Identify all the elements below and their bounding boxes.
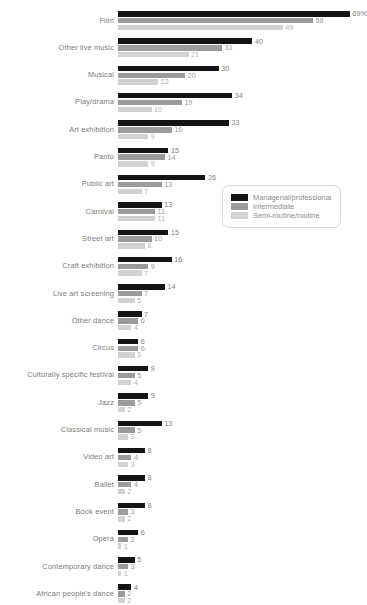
bar-item: 6 — [118, 318, 145, 323]
bar-value-label: 6 — [141, 529, 145, 536]
bar-rect — [118, 434, 128, 439]
bar-item: 31 — [118, 45, 233, 50]
bar-value-label: 9 — [151, 263, 155, 270]
bar-rect — [118, 311, 142, 316]
bar-value-label: 34 — [235, 92, 243, 99]
bar-value-label: 4 — [134, 584, 138, 591]
chart-category-row: Other live music403121 — [0, 34, 367, 61]
bar-item: 2 — [118, 489, 131, 494]
category-bars: 341910 — [118, 89, 367, 116]
bar-item: 3 — [118, 434, 135, 439]
legend-item: Managerial/professional — [231, 194, 331, 201]
bar-item: 40 — [118, 38, 263, 43]
chart-category-row: Other dance764 — [0, 307, 367, 334]
bar-value-label: 2 — [127, 406, 131, 413]
category-bars: 531 — [118, 553, 367, 580]
bar-value-label: 14 — [168, 154, 176, 161]
chart-category-row: Video art843 — [0, 444, 367, 471]
bar-value-label: 9 — [151, 365, 155, 372]
bar-rect — [118, 189, 142, 194]
category-bars: 1697 — [118, 253, 367, 280]
bar-rect — [118, 380, 131, 385]
category-label: Book event — [0, 508, 118, 516]
category-label: Opera — [0, 535, 118, 543]
bar-rect — [118, 325, 131, 330]
bar-item: 20 — [118, 73, 196, 78]
bar-item: 4 — [118, 455, 138, 460]
bar-value-label: 8 — [147, 474, 151, 481]
bar-rect — [118, 448, 145, 453]
category-bars: 33169 — [118, 116, 367, 143]
bar-value-label: 12 — [161, 78, 169, 85]
bar-rect — [118, 79, 158, 84]
bar-rect — [118, 475, 145, 480]
bar-rect — [118, 571, 121, 576]
bar-item: 15 — [118, 230, 179, 235]
bar-value-label: 2 — [127, 515, 131, 522]
bar-rect — [118, 462, 128, 467]
bar-value-label: 8 — [147, 502, 151, 509]
category-label: Classical music — [0, 426, 118, 434]
bar-item: 4 — [118, 380, 138, 385]
bar-item: 3 — [118, 462, 135, 467]
bar-rect — [118, 257, 172, 262]
category-bars: 1353 — [118, 416, 367, 443]
bar-rect — [118, 516, 125, 521]
category-bars: 422 — [118, 580, 367, 605]
bar-rect — [118, 18, 313, 23]
bar-rect — [118, 100, 182, 105]
bar-rect — [118, 591, 125, 596]
chart-category-row: Play/drama341910 — [0, 89, 367, 116]
bar-rect — [118, 352, 135, 357]
bar-value-label: 9 — [151, 160, 155, 167]
bar-rect — [118, 489, 125, 494]
bar-rect — [118, 270, 142, 275]
bar-item: 49 — [118, 25, 293, 30]
category-label: Play/drama — [0, 98, 118, 106]
bar-item: 9 — [118, 264, 155, 269]
category-bars: 842 — [118, 471, 367, 498]
category-label: Contemporary dance — [0, 563, 118, 571]
bar-rect — [118, 154, 165, 159]
bar-value-label: 5 — [137, 427, 141, 434]
bar-item: 13 — [118, 421, 172, 426]
category-bars: 302012 — [118, 62, 367, 89]
bar-rect — [118, 346, 138, 351]
bar-rect — [118, 73, 185, 78]
bar-item: 5 — [118, 557, 141, 562]
bar-value-label: 8 — [147, 447, 151, 454]
legend-item: Intermediate — [231, 203, 331, 210]
bar-value-label: 3 — [131, 433, 135, 440]
bar-rect — [118, 161, 148, 166]
legend-swatch-icon — [231, 212, 248, 219]
bar-item: 11 — [118, 216, 165, 221]
chart-category-row: Book event832 — [0, 498, 367, 525]
chart-category-row: Musical302012 — [0, 62, 367, 89]
bar-item: 7 — [118, 189, 148, 194]
bar-value-label: 13 — [164, 201, 172, 208]
chart-category-row: Jazz952 — [0, 389, 367, 416]
bar-rect — [118, 25, 283, 30]
chart-category-row: Film69%5849 — [0, 7, 367, 34]
category-bars: 631 — [118, 526, 367, 553]
category-label: African people's dance — [0, 590, 118, 598]
bar-value-label: 40 — [255, 38, 263, 45]
bar-rect — [118, 298, 135, 303]
bar-rect — [118, 134, 148, 139]
legend-swatch-icon — [231, 194, 248, 201]
bar-value-label: 1 — [124, 543, 128, 550]
bar-value-label: 2 — [127, 597, 131, 604]
bar-rect — [118, 45, 222, 50]
chart-category-row: Art exhibition33169 — [0, 116, 367, 143]
bar-item: 5 — [118, 427, 141, 432]
bar-value-label: 14 — [168, 283, 176, 290]
bar-rect — [118, 243, 145, 248]
bar-value-label: 10 — [154, 235, 162, 242]
bar-value-label: 5 — [137, 399, 141, 406]
bar-rect — [118, 598, 125, 603]
bar-item: 8 — [118, 243, 151, 248]
bar-item: 1 — [118, 571, 128, 576]
bar-rect — [118, 216, 155, 221]
category-label: Carnival — [0, 208, 118, 216]
bar-value-label: 33 — [231, 119, 239, 126]
